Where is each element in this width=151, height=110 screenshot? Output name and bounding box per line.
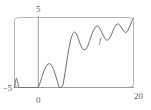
curve-annotation-label: f [99, 36, 103, 45]
y-axis-max-label: 5 [36, 4, 41, 14]
figure-container: 5 −5 0 20 f [0, 0, 151, 110]
x-axis-max-label: 20 [134, 91, 144, 101]
function-plot-chart: 5 −5 0 20 f [0, 0, 151, 110]
plot-frame [15, 18, 134, 88]
x-axis-origin-label: 0 [36, 95, 41, 105]
function-curve [15, 18, 134, 88]
y-axis-min-label: −5 [2, 83, 12, 93]
